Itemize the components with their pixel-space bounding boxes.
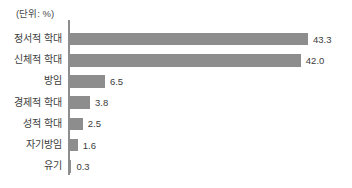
category-label: 자기방임 [0,139,62,151]
bar-row: 성적 학대2.5 [0,113,352,134]
bar-rows: 정서적 학대43.3신체적 학대42.0방임6.5경제적 학대3.8성적 학대2… [0,20,352,176]
category-label: 신체적 학대 [0,54,62,66]
bar-row: 방임6.5 [0,71,352,92]
category-label: 유기 [0,160,62,172]
bar [69,160,71,173]
bar [69,118,83,131]
bar-chart: (단위: %) 정서적 학대43.3신체적 학대42.0방임6.5경제적 학대3… [0,0,352,188]
value-label: 6.5 [110,76,123,87]
category-label: 경제적 학대 [0,97,62,109]
value-label: 0.3 [76,161,89,172]
category-label: 성적 학대 [0,118,62,130]
unit-note: (단위: %) [16,8,54,20]
bar [69,96,90,109]
bar-row: 유기0.3 [0,156,352,177]
bar-row: 경제적 학대3.8 [0,92,352,113]
value-label: 3.8 [95,97,108,108]
bar [69,54,301,67]
category-label: 방임 [0,75,62,87]
value-label: 1.6 [83,140,96,151]
bar [69,33,308,46]
value-label: 42.0 [306,55,325,66]
bar-row: 자기방임1.6 [0,135,352,156]
bar-row: 정서적 학대43.3 [0,29,352,50]
value-label: 43.3 [313,34,332,45]
bar [69,75,105,88]
bar-row: 신체적 학대42.0 [0,50,352,71]
plot-area: 정서적 학대43.3신체적 학대42.0방임6.5경제적 학대3.8성적 학대2… [0,20,352,176]
value-label: 2.5 [88,118,101,129]
category-label: 정서적 학대 [0,33,62,45]
bar [69,139,78,152]
